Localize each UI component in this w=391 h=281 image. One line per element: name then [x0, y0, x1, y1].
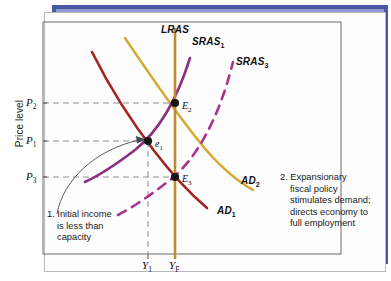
point-marker-e3 [171, 173, 179, 181]
y-tick-label-p1: P1 [26, 134, 36, 149]
curve-label-sras3: SRAS3 [236, 56, 269, 69]
y-tick-label-p2: P2 [26, 96, 36, 111]
curve-label-sras1: SRAS1 [192, 36, 225, 49]
curve-label-ad1: AD1 [217, 205, 236, 218]
curve-label-ad2: AD2 [241, 175, 260, 188]
figure-root: Price level P2 P1 P3 Y1 YF LRAS SRAS1 SR… [0, 0, 391, 281]
point-label-e2: E2 [182, 100, 192, 114]
point-marker-e2 [171, 99, 179, 107]
annotation-note-1: 1. Initial income is less than capacity [47, 209, 157, 244]
x-tick-label-y1: Y1 [142, 259, 152, 274]
x-tick-label-yf: YF [169, 259, 179, 274]
curve-label-lras: LRAS [161, 24, 189, 35]
annotation-note-2: 2. Expansionary fiscal policy stimulates… [280, 172, 391, 230]
y-axis-title: Price level [14, 84, 25, 164]
point-label-e3: E3 [182, 173, 192, 187]
point-marker-e1 [144, 137, 152, 145]
point-label-e1: e1 [155, 138, 163, 152]
y-tick-label-p3: P3 [26, 170, 36, 185]
